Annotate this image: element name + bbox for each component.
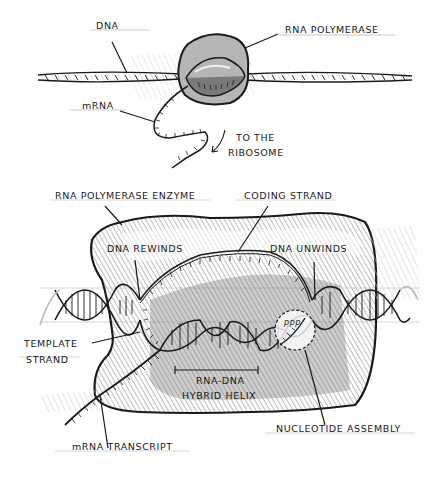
label-ribosome: RIBOSOME [228,148,284,159]
label-coding-strand: CODING STRAND [244,191,333,202]
label-nucleotide-assembly: NUCLEOTIDE ASSEMBLY [276,424,401,435]
arrow-to-ribosome-icon [212,130,225,152]
detail-illustration [20,200,420,451]
overview-illustration [38,30,412,168]
label-ppp: ppp [284,318,301,327]
label-mrna: mRNA [82,101,114,112]
label-hybrid-helix: HYBRID HELIX [182,391,256,402]
diagram-artwork [0,0,441,478]
label-rna-polymerase: RNA POLYMERASE [285,25,379,36]
label-mrna-transcript: mRNA TRANSCRIPT [72,442,173,453]
transcription-diagram: DNA RNA POLYMERASE mRNA TO THE RIBOSOME … [0,0,441,478]
label-to-the: TO THE [236,133,275,144]
label-rna-polymerase-enzyme: RNA POLYMERASE ENZYME [55,191,195,202]
label-dna: DNA [96,21,119,32]
label-dna-rewinds: DNA REWINDS [107,244,183,255]
label-rna-dna: RNA-DNA [196,376,245,387]
label-template: TEMPLATE [24,339,78,350]
label-strand: STRAND [26,355,69,366]
label-dna-unwinds: DNA UNWINDS [270,244,347,255]
